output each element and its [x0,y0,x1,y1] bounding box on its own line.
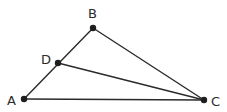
label-b: B [88,6,97,21]
segment-dc [58,63,204,100]
label-c: C [211,94,220,109]
label-a: A [7,93,16,108]
label-d: D [41,52,51,67]
point-d [55,60,61,66]
segment-ac [24,99,204,100]
point-c [201,97,207,103]
point-b [90,25,96,31]
segment-bc [93,28,204,100]
triangle-diagram: A B C D [0,0,227,112]
point-a [21,96,27,102]
